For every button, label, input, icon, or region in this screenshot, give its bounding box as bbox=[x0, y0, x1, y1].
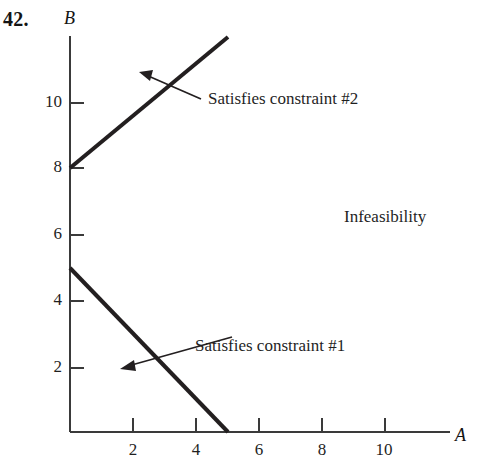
constraint-2-line bbox=[70, 37, 228, 168]
x-tick-label-10: 10 bbox=[374, 440, 394, 460]
x-tick-label-4: 4 bbox=[186, 440, 206, 460]
x-tick-label-6: 6 bbox=[249, 440, 269, 460]
y-axis-ticks bbox=[70, 103, 84, 368]
y-tick-label-10: 10 bbox=[36, 92, 62, 112]
x-axis-label: A bbox=[455, 425, 466, 446]
y-axis-label: B bbox=[64, 8, 75, 29]
plot-graphic bbox=[0, 0, 484, 467]
y-tick-label-6: 6 bbox=[36, 224, 62, 244]
figure-canvas: 42. bbox=[0, 0, 484, 467]
infeasibility-annotation: Infeasibility bbox=[344, 207, 426, 227]
x-tick-label-2: 2 bbox=[123, 440, 143, 460]
y-tick-label-4: 4 bbox=[36, 290, 62, 310]
y-tick-label-2: 2 bbox=[36, 357, 62, 377]
constraint-1-annotation: Satisfies constraint #1 bbox=[195, 336, 345, 356]
y-tick-label-8: 8 bbox=[36, 157, 62, 177]
constraint-2-annotation: Satisfies constraint #2 bbox=[208, 89, 358, 109]
x-axis-ticks bbox=[133, 418, 385, 432]
x-tick-label-8: 8 bbox=[312, 440, 332, 460]
